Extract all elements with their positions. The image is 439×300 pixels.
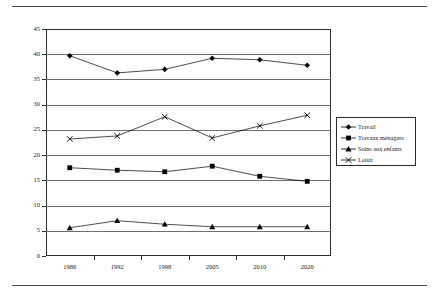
data-point-marker (162, 114, 168, 120)
data-point-marker (114, 70, 120, 76)
legend-item[interactable]: Soins aux enfants (340, 143, 415, 154)
series-line (70, 221, 308, 228)
series-line (70, 166, 308, 181)
series-line (70, 115, 308, 139)
data-point-marker (304, 63, 310, 69)
data-point-marker (162, 67, 168, 73)
data-point-marker (67, 165, 72, 170)
data-point-marker (67, 53, 73, 59)
data-point-marker (305, 179, 310, 184)
series-2 (67, 164, 309, 184)
series-1 (67, 53, 310, 76)
legend-item-label: Travaux ménagers (357, 134, 404, 141)
legend-item-label: Travail (357, 123, 376, 130)
triangle-marker-icon (340, 144, 357, 154)
data-point-marker (114, 218, 120, 223)
legend-item[interactable]: Travail (340, 121, 415, 132)
diamond-marker-icon (340, 122, 357, 132)
data-point-marker (257, 57, 263, 63)
series-4 (67, 112, 310, 141)
square-marker-icon (340, 133, 357, 143)
data-point-marker (115, 168, 120, 173)
legend-item-label: Loisir (357, 156, 373, 163)
data-point-marker (304, 112, 310, 118)
series-line (70, 56, 308, 73)
data-point-marker (209, 55, 215, 61)
data-point-marker (209, 135, 215, 141)
data-point-marker (257, 123, 263, 129)
data-point-marker (162, 169, 167, 174)
chart-legend: TravailTravaux ménagersSoins aux enfants… (336, 117, 416, 166)
legend-item[interactable]: Loisir (340, 154, 415, 165)
data-point-marker (210, 164, 215, 169)
cross-marker-icon (340, 155, 357, 165)
legend-item[interactable]: Travaux ménagers (340, 132, 415, 143)
legend-item-label: Soins aux enfants (357, 145, 402, 152)
data-point-marker (257, 174, 262, 179)
series-3 (67, 218, 311, 230)
